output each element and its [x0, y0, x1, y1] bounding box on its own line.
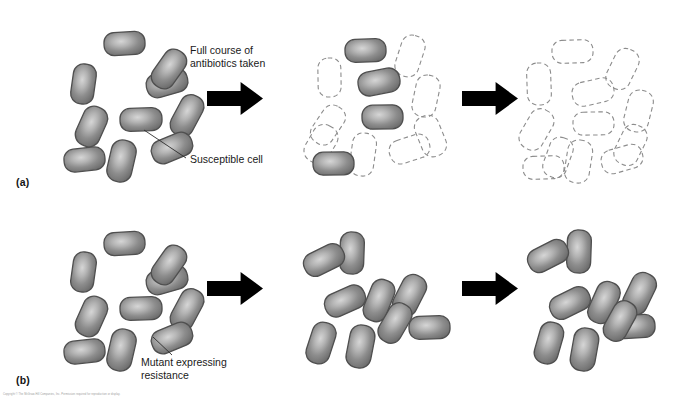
- panel-a1-live-cell: [72, 103, 112, 151]
- panel-b1-live-cell: [120, 296, 163, 320]
- panel-a2-dead-cell: [410, 73, 442, 119]
- panel-a2-live-cell: [313, 152, 354, 176]
- arrow-a2-icon: [462, 82, 518, 115]
- panel-a-stage1-cells: [63, 31, 208, 184]
- panel-a2-dead-cell: [411, 112, 450, 160]
- panel-a1-live-cell: [105, 138, 139, 185]
- panel-b3-live-cell: [546, 283, 594, 323]
- panel-a1-live-cell: [103, 31, 145, 56]
- panel-b2-live-cell: [344, 323, 377, 370]
- panel-b3-live-cell: [524, 236, 572, 276]
- panel-label-a: (a): [16, 176, 29, 188]
- panel-b3-live-cell: [566, 230, 591, 274]
- caption-mutant-expressing-resistance: Mutant expressing resistance: [141, 356, 227, 382]
- panel-a3-dead-cell: [599, 142, 646, 177]
- panel-b1-live-cell: [103, 231, 145, 256]
- panel-b2-live-cell: [409, 315, 451, 339]
- panel-a3-dead-cell: [515, 105, 558, 155]
- arrow-a3-icon: [207, 272, 263, 305]
- arrow-a1-icon: [207, 82, 263, 115]
- panel-a1-live-cell: [63, 146, 106, 173]
- panel-a3-dead-cell: [563, 138, 594, 184]
- panel-a3-dead-cell: [610, 121, 651, 170]
- panel-a-stage3-dead-cells: [515, 39, 656, 184]
- panel-a3-dead-cell: [570, 76, 616, 109]
- panel-a2-live-cell: [356, 66, 402, 98]
- panel-b1-live-cell: [148, 319, 196, 357]
- panel-a1-live-cell: [148, 129, 196, 167]
- panel-b1-live-cell: [72, 293, 112, 341]
- panel-a1-live-cell: [166, 91, 207, 140]
- panel-b-stage1-cells: [63, 231, 208, 373]
- panel-a2-live-cell: [362, 105, 403, 130]
- panel-a3-dead-cell: [540, 134, 577, 181]
- panel-a2-dead-cell: [386, 131, 432, 166]
- panel-b-stage2-cells: [300, 232, 451, 370]
- panel-a3-dead-cell: [573, 112, 614, 136]
- panel-a3-dead-cell: [526, 63, 551, 106]
- panel-a3-dead-cell: [602, 45, 643, 94]
- figure-root: (a) (b) Full course of antibiotics taken…: [0, 0, 673, 405]
- arrow-b2-icon: [462, 272, 518, 305]
- panel-a3-dead-cell: [552, 39, 594, 63]
- panel-b1-live-cell: [63, 338, 106, 365]
- caption-susceptible-cell: Susceptible cell: [190, 153, 263, 166]
- panel-a1-live-cell: [69, 63, 97, 106]
- panel-b1-live-cell: [69, 251, 97, 294]
- panel-a2-dead-cell: [318, 58, 342, 97]
- diagram-canvas: [0, 0, 673, 405]
- panel-a3-dead-cell: [523, 155, 565, 179]
- panel-b1-live-cell: [105, 327, 139, 374]
- caption-full-course-antibiotics: Full course of antibiotics taken: [190, 44, 265, 70]
- panel-b-stage3-cells: [524, 230, 660, 373]
- panel-b3-live-cell: [532, 320, 567, 367]
- panel-a2-live-cell: [345, 38, 387, 62]
- panel-b2-live-cell: [321, 281, 369, 320]
- panel-b3-live-cell: [568, 326, 600, 373]
- panel-b2-live-cell: [303, 319, 339, 366]
- panel-label-b: (b): [16, 374, 30, 386]
- copyright-credit-line: Copyright © The McGraw-Hill Companies, I…: [3, 393, 120, 396]
- panel-a1-live-cell: [120, 107, 163, 131]
